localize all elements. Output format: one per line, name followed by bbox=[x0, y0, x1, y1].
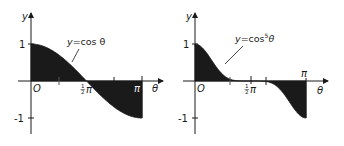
left-plot: y 1 -1 O θ 1 2 π π y=cos θ bbox=[14, 11, 163, 134]
left-origin-label: O bbox=[33, 83, 41, 94]
svg-text:π: π bbox=[86, 84, 93, 95]
right-plot: y 1 -1 O θ 1 2 π π y=cos5θ bbox=[178, 11, 328, 134]
right-x-axis-label: θ bbox=[317, 85, 323, 96]
left-leader-line bbox=[72, 49, 79, 62]
svg-text:2: 2 bbox=[245, 89, 249, 95]
right-ytick-label-1: 1 bbox=[183, 39, 189, 50]
left-x-axis-label: θ bbox=[152, 83, 158, 94]
right-origin-label: O bbox=[197, 83, 205, 94]
left-pi-label: π bbox=[134, 83, 141, 94]
right-half-pi-label: 1 2 π bbox=[245, 83, 258, 95]
right-pi-label: π bbox=[301, 68, 308, 79]
svg-text:π: π bbox=[250, 84, 257, 95]
figure: y 1 -1 O θ 1 2 π π y=cos θ y 1 -1 O bbox=[0, 0, 344, 146]
left-ytick-label-1: 1 bbox=[19, 39, 25, 50]
right-y-axis-label: y bbox=[185, 11, 193, 22]
svg-text:2: 2 bbox=[81, 89, 85, 95]
right-leader-line bbox=[225, 46, 243, 64]
left-half-pi-label: 1 2 π bbox=[81, 83, 94, 95]
left-curve-label: y=cos θ bbox=[66, 36, 106, 47]
left-y-axis-label: y bbox=[21, 11, 29, 22]
right-ytick-label-neg1: -1 bbox=[178, 113, 188, 124]
right-curve-label: y=cos5θ bbox=[234, 32, 274, 44]
left-ytick-label-neg1: -1 bbox=[14, 113, 24, 124]
